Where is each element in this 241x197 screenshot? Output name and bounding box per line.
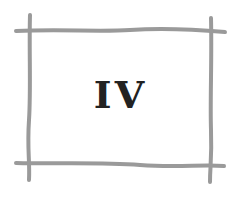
frame-bottom-line xyxy=(16,163,224,166)
numbered-card: IV xyxy=(0,0,241,197)
roman-numeral-label: IV xyxy=(0,73,241,117)
frame-top-line xyxy=(16,29,225,32)
